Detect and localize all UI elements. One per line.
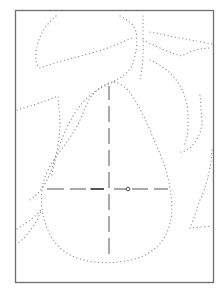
leaf-right-lower — [190, 150, 212, 228]
pear-body — [41, 82, 171, 263]
center-marker-icon — [126, 187, 130, 191]
leaf-top-left — [36, 16, 132, 68]
pear-stem — [112, 16, 137, 82]
leaf-right — [150, 60, 202, 152]
leaf-left-lower — [17, 210, 41, 244]
leaf-left — [17, 96, 60, 200]
leaf-top-right — [143, 32, 212, 56]
pear-pattern — [0, 0, 223, 291]
leaf-inner-line — [52, 80, 118, 175]
stem-line — [140, 16, 143, 80]
frame-border — [16, 11, 214, 283]
